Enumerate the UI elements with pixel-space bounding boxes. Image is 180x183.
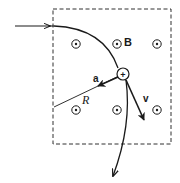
field-out-of-page-icon — [153, 40, 161, 48]
velocity-vector — [126, 80, 144, 120]
field-region-border — [53, 9, 171, 144]
field-out-of-page-icon — [72, 40, 80, 48]
acceleration-label: a — [93, 73, 99, 84]
field-out-of-page-icon — [113, 40, 121, 48]
charge-sign: + — [120, 70, 125, 80]
field-out-of-page-icon — [113, 106, 121, 114]
particle-trajectory-exit — [113, 80, 127, 176]
field-out-of-page-icon — [153, 106, 161, 114]
velocity-label: v — [143, 93, 149, 104]
positive-charge: + — [117, 68, 129, 80]
radius-label: R — [81, 93, 90, 107]
magnetic-field-diagram: + B a R v — [0, 0, 180, 183]
field-label: B — [124, 36, 132, 48]
acceleration-vector — [98, 77, 118, 86]
particle-trajectory — [54, 26, 118, 68]
field-out-of-page-icon — [72, 106, 80, 114]
